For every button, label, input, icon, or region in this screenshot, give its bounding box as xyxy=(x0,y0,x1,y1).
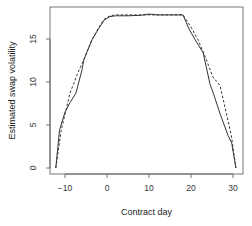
x-tick-label: 10 xyxy=(144,183,154,193)
series-group xyxy=(56,14,236,168)
series-solid-line xyxy=(56,14,236,168)
x-tick-label: 0 xyxy=(105,183,110,193)
y-axis: 051015 xyxy=(28,34,50,170)
plot-frame xyxy=(50,7,243,174)
x-axis-title: Contract day xyxy=(121,207,173,217)
line-chart: −100102030 051015 Contract day Estimated… xyxy=(0,0,252,226)
x-tick-label: −10 xyxy=(58,183,73,193)
y-tick-label: 15 xyxy=(28,34,38,44)
x-tick-label: 20 xyxy=(186,183,196,193)
x-axis: −100102030 xyxy=(58,174,238,193)
x-tick-label: 30 xyxy=(228,183,238,193)
y-tick-label: 10 xyxy=(28,77,38,87)
y-tick-label: 5 xyxy=(28,122,38,127)
y-tick-label: 0 xyxy=(28,165,38,170)
series-dashed-line xyxy=(56,15,236,168)
y-axis-title: Estimated swap volatility xyxy=(7,41,17,140)
